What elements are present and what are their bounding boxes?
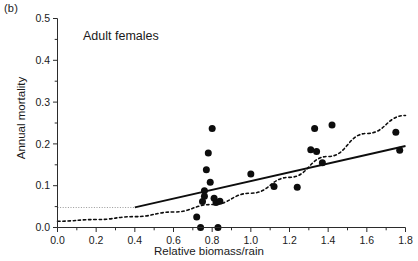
scatter-plot-canvas: 0.00.10.20.30.40.50.00.20.40.60.81.01.21…	[0, 0, 418, 261]
x-axis-label: Relative biomass/rain	[0, 245, 418, 257]
panel-label: (b)	[4, 2, 18, 14]
x-tick-label: 1.4	[321, 234, 336, 246]
tick-labels-group: 0.00.10.20.30.40.50.00.20.40.60.81.01.21…	[35, 12, 413, 245]
y-tick-label: 0.2	[35, 138, 50, 150]
x-tick-label: 0.4	[128, 234, 143, 246]
plot-annotation-adult-females: Adult females	[83, 29, 159, 43]
x-tick-label: 1.2	[282, 234, 297, 246]
y-tick-label: 0.4	[35, 54, 50, 66]
data-point	[329, 122, 336, 129]
data-point	[392, 129, 399, 136]
x-tick-label: 0.2	[89, 234, 104, 246]
y-tick-label: 0.5	[35, 12, 50, 24]
y-tick-label: 0.3	[35, 96, 50, 108]
data-point	[247, 171, 254, 178]
fitted-line-group	[135, 146, 406, 207]
x-tick-label: 0.8	[205, 234, 220, 246]
data-point	[216, 198, 223, 205]
x-tick-label: 1.6	[360, 234, 375, 246]
x-tick-label: 0.6	[166, 234, 181, 246]
y-tick-label: 0.0	[35, 221, 50, 233]
x-tick-label: 1.8	[398, 234, 413, 246]
data-point	[209, 125, 216, 132]
data-point	[294, 184, 301, 191]
data-point	[201, 193, 208, 200]
data-points-group	[193, 122, 403, 231]
data-point	[311, 125, 318, 132]
fitted-curve-group	[58, 115, 406, 221]
data-point	[319, 159, 326, 166]
data-point	[207, 179, 214, 186]
x-tick-label: 0.0	[50, 234, 65, 246]
figure-panel: (b) Adult females Relative biomass/rain …	[0, 0, 418, 261]
data-point	[313, 148, 320, 155]
data-point	[205, 150, 212, 157]
y-tick-label: 0.1	[35, 179, 50, 191]
x-tick-label: 1.0	[244, 234, 259, 246]
data-point	[271, 183, 278, 190]
y-axis-label: Annual mortality	[15, 43, 27, 193]
data-point	[193, 214, 200, 221]
data-point	[396, 147, 403, 154]
data-point	[203, 166, 210, 173]
